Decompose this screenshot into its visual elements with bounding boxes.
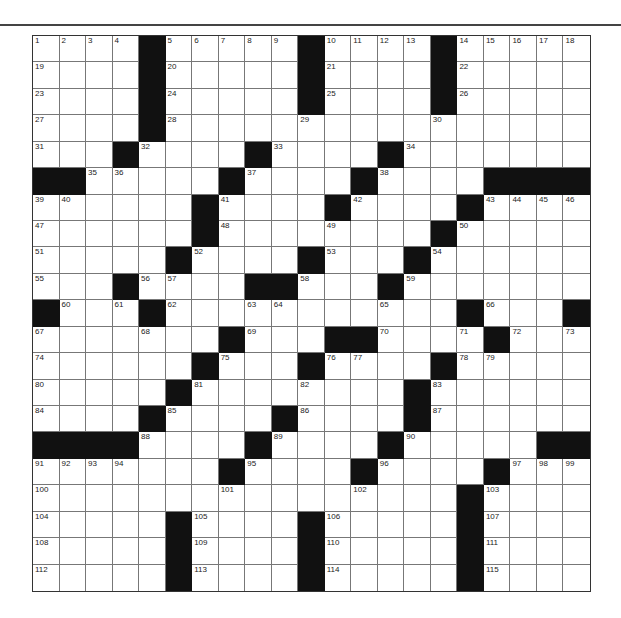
grid-cell[interactable]: 72: [510, 327, 537, 353]
grid-cell[interactable]: [537, 300, 564, 326]
grid-cell[interactable]: 56: [139, 274, 166, 300]
grid-cell[interactable]: [537, 142, 564, 168]
grid-cell[interactable]: [272, 62, 299, 88]
grid-cell[interactable]: 71: [457, 327, 484, 353]
grid-cell[interactable]: [325, 274, 352, 300]
grid-cell[interactable]: 34: [404, 142, 431, 168]
grid-cell[interactable]: [378, 115, 405, 141]
grid-cell[interactable]: 51: [33, 247, 60, 273]
grid-cell[interactable]: [192, 300, 219, 326]
grid-cell[interactable]: [219, 300, 246, 326]
grid-cell[interactable]: 38: [378, 168, 405, 194]
grid-cell[interactable]: [219, 115, 246, 141]
grid-cell[interactable]: 3: [86, 36, 113, 62]
grid-cell[interactable]: 25: [325, 89, 352, 115]
grid-cell[interactable]: [484, 89, 511, 115]
grid-cell[interactable]: [139, 168, 166, 194]
grid-cell[interactable]: 53: [325, 247, 352, 273]
grid-cell[interactable]: [431, 565, 458, 591]
grid-cell[interactable]: [245, 221, 272, 247]
grid-cell[interactable]: [113, 538, 140, 564]
grid-cell[interactable]: 77: [351, 353, 378, 379]
grid-cell[interactable]: [378, 89, 405, 115]
grid-cell[interactable]: [113, 353, 140, 379]
grid-cell[interactable]: [431, 538, 458, 564]
grid-cell[interactable]: 4: [113, 36, 140, 62]
grid-cell[interactable]: [113, 327, 140, 353]
grid-cell[interactable]: [245, 512, 272, 538]
grid-cell[interactable]: [537, 62, 564, 88]
grid-cell[interactable]: 61: [113, 300, 140, 326]
grid-cell[interactable]: 33: [272, 142, 299, 168]
grid-cell[interactable]: [298, 485, 325, 511]
grid-cell[interactable]: [404, 459, 431, 485]
grid-cell[interactable]: [272, 538, 299, 564]
grid-cell[interactable]: [86, 115, 113, 141]
grid-cell[interactable]: [60, 353, 87, 379]
grid-cell[interactable]: [537, 353, 564, 379]
grid-cell[interactable]: [537, 565, 564, 591]
grid-cell[interactable]: 45: [537, 195, 564, 221]
grid-cell[interactable]: 87: [431, 406, 458, 432]
grid-cell[interactable]: [325, 142, 352, 168]
grid-cell[interactable]: 20: [166, 62, 193, 88]
grid-cell[interactable]: [457, 274, 484, 300]
grid-cell[interactable]: 12: [378, 36, 405, 62]
grid-cell[interactable]: 44: [510, 195, 537, 221]
grid-cell[interactable]: 75: [219, 353, 246, 379]
grid-cell[interactable]: [166, 221, 193, 247]
grid-cell[interactable]: [484, 247, 511, 273]
grid-cell[interactable]: [113, 115, 140, 141]
grid-cell[interactable]: 84: [33, 406, 60, 432]
grid-cell[interactable]: [325, 380, 352, 406]
grid-cell[interactable]: 21: [325, 62, 352, 88]
grid-cell[interactable]: 113: [192, 565, 219, 591]
grid-cell[interactable]: [86, 380, 113, 406]
grid-cell[interactable]: [378, 380, 405, 406]
grid-cell[interactable]: 108: [33, 538, 60, 564]
grid-cell[interactable]: [404, 89, 431, 115]
grid-cell[interactable]: [60, 380, 87, 406]
grid-cell[interactable]: [86, 62, 113, 88]
grid-cell[interactable]: 35: [86, 168, 113, 194]
grid-cell[interactable]: [86, 485, 113, 511]
grid-cell[interactable]: [404, 62, 431, 88]
grid-cell[interactable]: 93: [86, 459, 113, 485]
grid-cell[interactable]: 47: [33, 221, 60, 247]
grid-cell[interactable]: [484, 221, 511, 247]
grid-cell[interactable]: 95: [245, 459, 272, 485]
grid-cell[interactable]: 85: [166, 406, 193, 432]
grid-cell[interactable]: 94: [113, 459, 140, 485]
grid-cell[interactable]: [192, 89, 219, 115]
grid-cell[interactable]: [431, 432, 458, 458]
grid-cell[interactable]: 5: [166, 36, 193, 62]
grid-cell[interactable]: 48: [219, 221, 246, 247]
grid-cell[interactable]: [378, 62, 405, 88]
grid-cell[interactable]: [484, 62, 511, 88]
grid-cell[interactable]: [431, 195, 458, 221]
grid-cell[interactable]: [113, 380, 140, 406]
grid-cell[interactable]: [457, 380, 484, 406]
grid-cell[interactable]: [166, 485, 193, 511]
grid-cell[interactable]: [431, 142, 458, 168]
grid-cell[interactable]: [272, 380, 299, 406]
grid-cell[interactable]: [272, 115, 299, 141]
grid-cell[interactable]: [563, 115, 590, 141]
grid-cell[interactable]: [510, 115, 537, 141]
grid-cell[interactable]: [60, 565, 87, 591]
grid-cell[interactable]: [139, 195, 166, 221]
grid-cell[interactable]: 49: [325, 221, 352, 247]
grid-cell[interactable]: [86, 406, 113, 432]
grid-cell[interactable]: 15: [484, 36, 511, 62]
grid-cell[interactable]: [563, 512, 590, 538]
grid-cell[interactable]: [139, 353, 166, 379]
grid-cell[interactable]: 22: [457, 62, 484, 88]
grid-cell[interactable]: [139, 380, 166, 406]
grid-cell[interactable]: [298, 300, 325, 326]
grid-cell[interactable]: [325, 300, 352, 326]
grid-cell[interactable]: 66: [484, 300, 511, 326]
grid-cell[interactable]: [510, 485, 537, 511]
grid-cell[interactable]: [510, 380, 537, 406]
grid-cell[interactable]: [86, 512, 113, 538]
grid-cell[interactable]: [563, 406, 590, 432]
